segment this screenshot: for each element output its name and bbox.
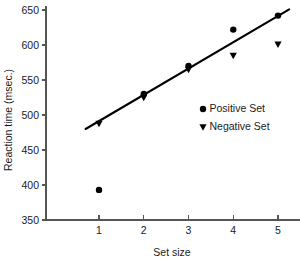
reaction-time-scatter-chart: 350400450500550600650 12345 Set size Rea…: [0, 0, 300, 259]
x-tick-label: 3: [186, 224, 192, 236]
chart-container: 350400450500550600650 12345 Set size Rea…: [0, 0, 300, 259]
x-tick-label: 4: [230, 224, 236, 236]
data-point-circle: [275, 12, 281, 18]
data-point-circle: [230, 26, 236, 32]
legend-marker-circle: [200, 106, 206, 112]
y-tick-label: 400: [21, 179, 39, 191]
series-negative-set: [95, 42, 281, 128]
legend-label: Negative Set: [210, 120, 270, 132]
data-point-triangle: [274, 42, 281, 49]
y-tick-label: 650: [21, 4, 39, 16]
data-point-triangle: [230, 53, 237, 60]
y-axis-title: Reaction time (msec.): [2, 69, 14, 171]
y-tick-label: 350: [21, 214, 39, 226]
data-point-triangle: [140, 95, 147, 102]
y-axis-ticks: 350400450500550600650: [21, 4, 46, 226]
data-point-circle: [96, 187, 102, 193]
x-axis-ticks: 12345: [96, 215, 281, 236]
x-tick-label: 1: [96, 224, 102, 236]
data-point-triangle: [95, 121, 102, 128]
legend-marker-triangle: [199, 124, 206, 131]
y-tick-label: 500: [21, 109, 39, 121]
legend-label: Positive Set: [210, 102, 266, 114]
y-tick-label: 600: [21, 39, 39, 51]
y-tick-label: 450: [21, 144, 39, 156]
x-tick-label: 5: [275, 224, 281, 236]
x-axis-title: Set size: [153, 246, 191, 258]
y-tick-label: 550: [21, 74, 39, 86]
x-tick-label: 2: [141, 224, 147, 236]
chart-legend: Positive SetNegative Set: [199, 102, 269, 132]
